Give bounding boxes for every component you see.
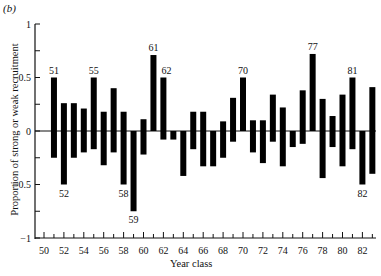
- bar-year-65: [190, 112, 196, 149]
- x-tick-label: 74: [278, 245, 288, 256]
- bar-year-73: [270, 95, 276, 142]
- bar-year-70: [240, 78, 246, 132]
- x-tick-label: 64: [178, 245, 188, 256]
- bar-year-75: [290, 131, 296, 147]
- x-tick-label: 54: [79, 245, 89, 256]
- bar-year-55: [91, 78, 97, 150]
- x-tick-label: 56: [99, 245, 109, 256]
- y-tick-label: 1: [26, 19, 31, 30]
- x-tick-label: 66: [198, 245, 208, 256]
- bar-year-68: [220, 121, 226, 157]
- x-tick-label: 76: [298, 245, 308, 256]
- bar-year-64: [180, 131, 186, 176]
- bar-annotation: 59: [129, 214, 139, 225]
- y-tick-label: 0: [26, 126, 31, 137]
- bar-year-56: [101, 112, 107, 165]
- bar-annotation: 55: [89, 65, 99, 76]
- bar-year-69: [230, 98, 236, 142]
- bar-year-83: [369, 87, 375, 174]
- bar-year-63: [170, 131, 176, 140]
- x-tick-label: 72: [258, 245, 268, 256]
- bar-year-66: [200, 112, 206, 167]
- bar-year-81: [349, 78, 355, 150]
- bar-year-52: [61, 103, 67, 184]
- bar-annotation: 61: [148, 42, 158, 53]
- x-tick-label: 60: [139, 245, 149, 256]
- y-tick-label: 0.5: [19, 72, 32, 83]
- y-tick-label: −1: [20, 233, 31, 244]
- bar-year-57: [111, 88, 117, 152]
- x-tick-label: 50: [39, 245, 49, 256]
- bar-year-61: [150, 55, 156, 131]
- x-tick-label: 58: [119, 245, 129, 256]
- bar-year-78: [320, 99, 326, 178]
- bar-year-54: [81, 109, 87, 153]
- bar-year-58: [121, 112, 127, 185]
- bar-year-59: [131, 131, 137, 211]
- bar-year-74: [280, 107, 286, 166]
- plot-area: −1−0.500.5150525456586062646668707274767…: [0, 0, 381, 276]
- x-tick-label: 68: [218, 245, 228, 256]
- bar-year-82: [359, 131, 365, 185]
- bar-year-60: [141, 119, 147, 154]
- bar-year-53: [71, 103, 77, 158]
- bar-year-71: [250, 120, 256, 152]
- bar-annotation: 51: [49, 65, 59, 76]
- bar-year-67: [210, 131, 216, 166]
- bar-annotation: 77: [308, 41, 318, 52]
- bar-year-80: [340, 95, 346, 167]
- bar-annotation: 52: [59, 188, 69, 199]
- x-tick-label: 70: [238, 245, 248, 256]
- x-tick-label: 80: [338, 245, 348, 256]
- bar-year-72: [260, 120, 266, 163]
- x-tick-label: 62: [158, 245, 168, 256]
- recruitment-bar-chart: (b) Proportion of strong or weak recruit…: [0, 0, 381, 276]
- bar-year-51: [51, 78, 57, 158]
- y-tick-label: −0.5: [13, 179, 31, 190]
- bar-annotation: 82: [357, 188, 367, 199]
- x-tick-label: 82: [357, 245, 367, 256]
- x-tick-label: 78: [318, 245, 328, 256]
- x-tick-label: 52: [59, 245, 69, 256]
- bar-year-62: [160, 78, 166, 140]
- bar-annotation: 70: [238, 65, 248, 76]
- bar-year-76: [300, 90, 306, 144]
- bar-annotation: 58: [119, 188, 129, 199]
- bar-year-77: [310, 54, 316, 131]
- bar-year-79: [330, 116, 336, 147]
- bar-annotation: 62: [161, 65, 171, 76]
- bar-annotation: 81: [347, 65, 357, 76]
